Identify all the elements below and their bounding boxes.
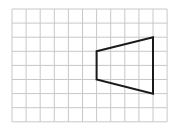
grid-lines [12,9,167,122]
grid-diagram [0,0,174,130]
